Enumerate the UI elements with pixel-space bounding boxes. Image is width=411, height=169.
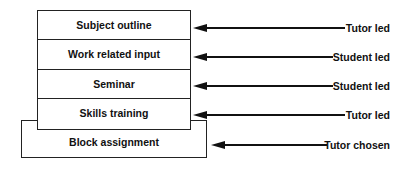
role-label-block-assignment: Tutor chosen — [324, 139, 390, 151]
left-arrow-icon — [193, 24, 345, 32]
left-arrow-icon — [193, 53, 333, 61]
role-label-subject-outline: Tutor led — [346, 22, 390, 34]
left-arrow-icon — [211, 141, 327, 149]
left-arrow-icon — [193, 82, 333, 90]
role-label-skills-training: Tutor led — [346, 109, 390, 121]
left-arrow-icon — [193, 111, 345, 119]
role-label-work-related-input: Student led — [333, 51, 390, 63]
role-label-seminar: Student led — [333, 80, 390, 92]
